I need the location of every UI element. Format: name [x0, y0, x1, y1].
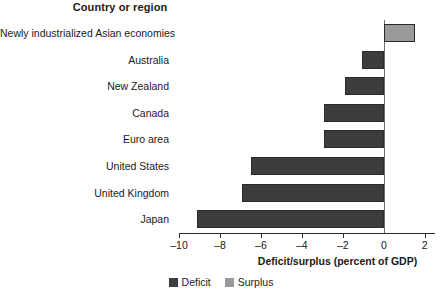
- x-tick: [261, 233, 262, 238]
- x-tick-label: 0: [369, 239, 399, 251]
- bar-row: [179, 153, 435, 180]
- bar-deficit: [345, 77, 384, 95]
- x-tick-label: 2: [410, 239, 440, 251]
- category-label: United Kingdom: [0, 180, 174, 207]
- x-tick: [220, 233, 221, 238]
- bar-row: [179, 47, 435, 74]
- bar-row: [179, 20, 435, 47]
- x-tick: [302, 233, 303, 238]
- bar-deficit: [324, 130, 383, 148]
- x-tick: [425, 233, 426, 238]
- x-tick: [343, 233, 344, 238]
- chart-legend: DeficitSurplus: [0, 276, 442, 288]
- x-tick: [179, 233, 180, 238]
- x-tick-label: –6: [246, 239, 276, 251]
- category-label: Newly industrialized Asian economies: [0, 20, 174, 47]
- legend-label: Surplus: [238, 276, 274, 288]
- bar-deficit: [324, 104, 383, 122]
- x-tick-label: –4: [287, 239, 317, 251]
- category-label: Canada: [0, 100, 174, 127]
- plot-area: [179, 20, 435, 233]
- legend-swatch-icon: [225, 278, 234, 287]
- x-tick-label: –10: [164, 239, 194, 251]
- x-tick-label: –8: [205, 239, 235, 251]
- x-tick-label: –2: [328, 239, 358, 251]
- bar-chart: Country or region Newly industrialized A…: [0, 0, 442, 298]
- bar-row: [179, 180, 435, 207]
- bar-deficit: [242, 184, 383, 202]
- bar-row: [179, 100, 435, 127]
- bar-deficit: [197, 210, 383, 228]
- legend-swatch-icon: [169, 278, 178, 287]
- x-axis-title: Deficit/surplus (percent of GDP): [235, 255, 440, 267]
- x-axis-line: [179, 233, 435, 234]
- category-label: United States: [0, 153, 174, 180]
- category-label: Australia: [0, 47, 174, 74]
- bar-row: [179, 126, 435, 153]
- bar-deficit: [362, 51, 384, 69]
- bar-row: [179, 73, 435, 100]
- legend-item: Deficit: [169, 276, 211, 288]
- category-label: Euro area: [0, 126, 174, 153]
- legend-label: Deficit: [182, 276, 211, 288]
- category-axis-labels: Newly industrialized Asian economiesAust…: [0, 20, 174, 233]
- category-label: New Zealand: [0, 73, 174, 100]
- y-axis-title: Country or region: [0, 1, 240, 13]
- bar-row: [179, 206, 435, 233]
- category-label: Japan: [0, 206, 174, 233]
- bar-deficit: [251, 157, 384, 175]
- legend-item: Surplus: [225, 276, 274, 288]
- bar-surplus: [384, 24, 415, 42]
